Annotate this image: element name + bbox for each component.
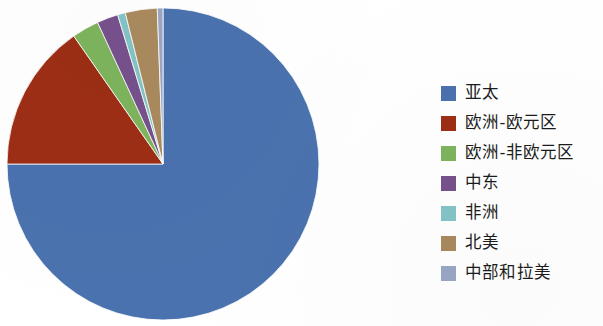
pie-chart-svg [0, 0, 340, 326]
pie-chart-plot-area [0, 0, 340, 326]
legend-swatch-icon [441, 86, 456, 101]
legend-swatch-icon [441, 146, 456, 161]
legend-swatch-icon [441, 116, 456, 131]
legend-item-north-america[interactable]: 北美 [441, 228, 603, 258]
legend-item-label: 中部和拉美 [465, 265, 551, 282]
chart-legend: 亚太 欧洲-欧元区 欧洲-非欧元区 中东 非洲 北美 中部和拉美 [441, 78, 603, 288]
legend-item-label: 欧洲-非欧元区 [465, 145, 574, 162]
legend-swatch-icon [441, 266, 456, 281]
pie-chart-figure: 亚太 欧洲-欧元区 欧洲-非欧元区 中东 非洲 北美 中部和拉美 [0, 0, 603, 326]
legend-swatch-icon [441, 236, 456, 251]
legend-item-europe-non-eurozone[interactable]: 欧洲-非欧元区 [441, 138, 603, 168]
legend-item-europe-eurozone[interactable]: 欧洲-欧元区 [441, 108, 603, 138]
legend-item-label: 欧洲-欧元区 [465, 115, 557, 132]
legend-swatch-icon [441, 176, 456, 191]
legend-swatch-icon [441, 206, 456, 221]
legend-item-africa[interactable]: 非洲 [441, 198, 603, 228]
legend-item-label: 亚太 [465, 85, 499, 102]
legend-item-label: 中东 [465, 175, 499, 192]
legend-item-central-latin-america[interactable]: 中部和拉美 [441, 258, 603, 288]
legend-item-asia-pacific[interactable]: 亚太 [441, 78, 603, 108]
pie-slice-group [7, 8, 319, 320]
legend-item-middle-east[interactable]: 中东 [441, 168, 603, 198]
legend-item-label: 北美 [465, 235, 499, 252]
legend-item-label: 非洲 [465, 205, 499, 222]
